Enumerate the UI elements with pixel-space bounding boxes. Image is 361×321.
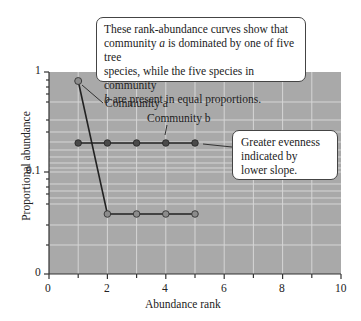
x-tick-label: 2 — [104, 282, 110, 294]
data-point — [104, 211, 111, 218]
data-point — [163, 211, 170, 218]
data-point — [75, 78, 82, 85]
x-tick-label: 4 — [162, 282, 168, 294]
y-axis-title: Proportional abundance — [20, 106, 32, 226]
data-point — [104, 140, 111, 147]
callout-line: lower slope. — [241, 163, 329, 177]
callout-line: community a is dominated by one of five … — [104, 36, 298, 64]
callout-line: indicated by — [241, 149, 329, 163]
data-point — [163, 140, 170, 147]
data-point — [192, 140, 199, 147]
data-point — [133, 140, 140, 147]
data-point — [133, 211, 140, 218]
callout-line: species, while the five species in commu… — [104, 64, 298, 92]
x-tick-label: 6 — [221, 282, 227, 294]
annotation-callout-top: These rank-abundance curves show that co… — [96, 17, 306, 82]
label-community-a: Community a — [105, 97, 168, 109]
callout-text: community — [104, 37, 159, 49]
label-community-b: Community b — [147, 112, 211, 124]
y-tick-label: 0 — [35, 266, 41, 278]
data-point — [75, 140, 82, 147]
callout-line: Greater evenness — [241, 135, 329, 149]
data-point — [192, 211, 199, 218]
x-tick-label: 0 — [45, 282, 51, 294]
callout-line: These rank-abundance curves show that — [104, 22, 298, 36]
x-axis-title: Abundance rank — [145, 298, 221, 310]
x-tick-label: 8 — [279, 282, 285, 294]
x-tick-label: 10 — [335, 282, 347, 294]
annotation-callout-evenness: Greater evenness indicated by lower slop… — [232, 130, 338, 180]
y-tick-label: 1 — [35, 64, 41, 76]
